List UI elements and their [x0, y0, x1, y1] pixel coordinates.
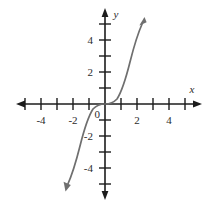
curve-upper-arrowhead: [139, 17, 146, 25]
x-tick-label-pos4: 4: [166, 114, 172, 126]
x-axis-label: x: [189, 83, 195, 95]
curve-lower-arrowhead: [64, 182, 71, 192]
x-tick-label-neg4: -4: [36, 114, 46, 126]
x-tick-label-neg2: -2: [68, 114, 77, 126]
y-axis-label: y: [113, 8, 119, 20]
x-axis-left-arrowhead: [16, 101, 25, 108]
y-tick-label-neg2: -2: [84, 130, 93, 142]
y-tick-label-neg4: -4: [84, 162, 94, 174]
graph-figure: -4 -2 2 4 4 2 -2 -4 0 x y: [0, 0, 208, 204]
y-tick-label-pos4: 4: [88, 34, 94, 46]
y-axis-top-arrowhead: [102, 8, 109, 17]
x-axis-right-arrowhead: [193, 101, 202, 108]
y-tick-label-pos2: 2: [88, 66, 94, 78]
coordinate-plane-plot: -4 -2 2 4 4 2 -2 -4 0 x y: [0, 0, 208, 204]
y-axis-bottom-arrowhead: [102, 191, 109, 200]
x-tick-label-pos2: 2: [134, 114, 140, 126]
origin-label: 0: [95, 108, 101, 120]
